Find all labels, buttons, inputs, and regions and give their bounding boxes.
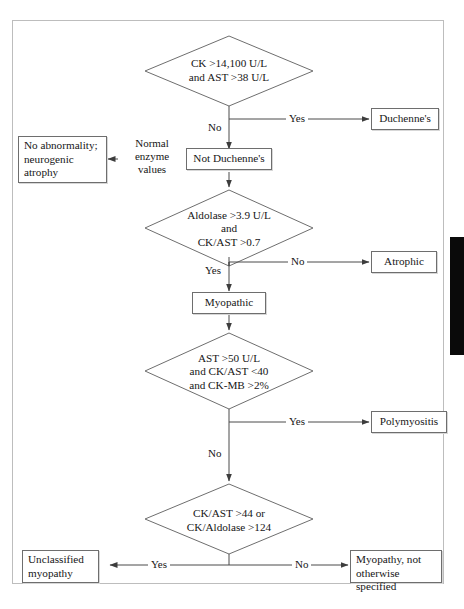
edge-label-d3-yes: Yes <box>286 415 308 428</box>
node-duchennes-label: Duchenne's <box>379 112 431 126</box>
node-unclassified-myopathy-line-2: myopathy <box>28 567 73 581</box>
edge-label-d4-no: No <box>292 558 311 571</box>
node-myopathy-nos[interactable]: Myopathy, not otherwise specified <box>350 550 442 583</box>
node-polymyositis[interactable]: Polymyositis <box>371 411 447 433</box>
edge-label-d1-yes: Yes <box>286 112 308 125</box>
node-myopathy-nos-line-2: otherwise specified <box>356 567 436 594</box>
node-not-duchennes[interactable]: Not Duchenne's <box>186 148 272 170</box>
figure-canvas: CK >14,100 U/L and AST >38 U/L Aldolase … <box>0 0 464 609</box>
node-duchennes[interactable]: Duchenne's <box>371 108 439 130</box>
decision-3-shape <box>145 333 313 409</box>
node-no-abnormality-line-1: No abnormality; <box>24 139 98 153</box>
node-no-abnormality-line-3: atrophy <box>24 166 58 180</box>
edge-label-d1-no: No <box>205 121 224 134</box>
decision-4-shape <box>145 484 313 554</box>
edge-label-d3-no: No <box>205 447 224 460</box>
node-atrophic-label: Atrophic <box>384 255 424 269</box>
edge-label-d4-yes: Yes <box>148 558 170 571</box>
node-unclassified-myopathy[interactable]: Unclassified myopathy <box>22 550 99 583</box>
node-polymyositis-label: Polymyositis <box>380 415 438 429</box>
edge-label-d2-no: No <box>288 255 307 268</box>
node-unclassified-myopathy-line-1: Unclassified <box>28 553 84 567</box>
node-no-abnormality-line-2: neurogenic <box>24 153 74 167</box>
edge-label-normal-enzyme-values: Normal enzyme values <box>118 137 186 177</box>
node-no-abnormality[interactable]: No abnormality; neurogenic atrophy <box>18 136 107 183</box>
edge-label-normal-enzyme-line-1: Normal <box>135 137 169 149</box>
node-myopathy-nos-line-1: Myopathy, not <box>356 553 421 567</box>
node-myopathic[interactable]: Myopathic <box>192 292 266 314</box>
node-not-duchennes-label: Not Duchenne's <box>193 152 264 166</box>
node-myopathic-label: Myopathic <box>205 296 253 310</box>
edge-label-normal-enzyme-line-2: enzyme <box>135 150 169 162</box>
node-atrophic[interactable]: Atrophic <box>371 251 437 273</box>
decision-1-shape <box>145 36 313 106</box>
edge-label-d2-yes: Yes <box>202 264 224 277</box>
edge-label-normal-enzyme-line-3: values <box>138 163 166 175</box>
